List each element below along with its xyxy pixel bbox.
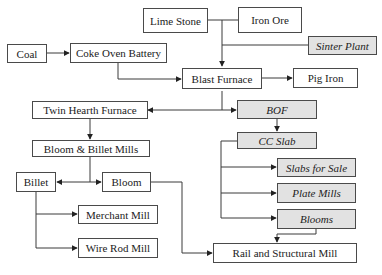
node-coal: Coal [7, 44, 47, 63]
node-blast-furnace: Blast Furnace [182, 68, 262, 89]
node-cc-slab: CC Slab [237, 132, 317, 149]
node-bloom-billet-mills: Bloom & Billet Mills [32, 140, 150, 157]
node-bof: BOF [237, 100, 317, 119]
node-rail-structural-mill: Rail and Structural Mill [213, 243, 357, 263]
node-bloom: Bloom [102, 172, 151, 192]
node-wire-rod-mill: Wire Rod Mill [78, 238, 158, 258]
line-ccslab-branch [221, 141, 237, 218]
node-iron-ore: Iron Ore [238, 7, 302, 33]
node-blooms: Blooms [277, 209, 356, 229]
steel-process-flowchart: Lime Stone Iron Ore Sinter Plant Coal Co… [0, 0, 382, 275]
node-plate-mills: Plate Mills [277, 183, 356, 203]
arrow-billet-wirerod [36, 192, 77, 248]
arrow-bloom-rail [151, 182, 212, 253]
node-pig-iron: Pig Iron [293, 68, 358, 88]
node-twin-hearth-furnace: Twin Hearth Furnace [32, 101, 148, 119]
node-merchant-mill: Merchant Mill [78, 205, 158, 224]
arrow-coke-blast [118, 63, 181, 79]
arrow-blooms-rail [277, 229, 316, 242]
node-billet: Billet [16, 172, 56, 192]
node-lime-stone: Lime Stone [143, 8, 208, 33]
node-coke-oven-battery: Coke Oven Battery [70, 43, 167, 63]
node-slabs-for-sale: Slabs for Sale [277, 158, 356, 177]
node-sinter-plant: Sinter Plant [308, 36, 377, 55]
